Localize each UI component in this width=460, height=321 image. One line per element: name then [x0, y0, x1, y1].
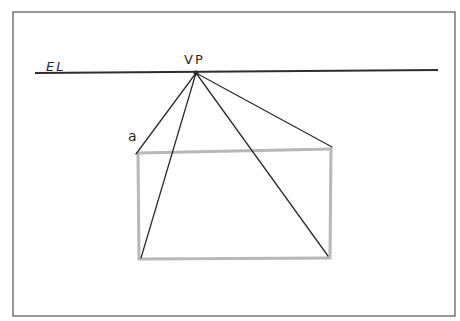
line-to-bottom-right: [196, 73, 328, 256]
eye-level-label: EL: [46, 59, 65, 74]
vanishing-point-dot: [194, 71, 199, 76]
convergence-lines: [136, 73, 332, 258]
perspective-drawing: EL VP a: [0, 0, 460, 321]
corner-a-label: a: [128, 128, 137, 144]
line-to-bottom-left: [141, 73, 196, 258]
eye-level-line: [35, 70, 438, 73]
drawing-frame: [13, 12, 455, 316]
line-to-corner-a: [136, 73, 196, 154]
pencil-rectangle: [138, 149, 331, 259]
line-to-top-right: [196, 73, 332, 147]
vanishing-point-label: VP: [184, 52, 205, 67]
